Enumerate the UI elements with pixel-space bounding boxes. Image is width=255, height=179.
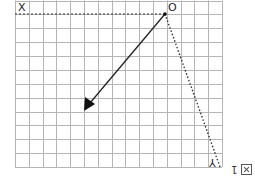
caption-number: 1 <box>231 164 237 175</box>
grid-lines <box>15 1 223 168</box>
label-x: X <box>18 2 26 13</box>
figure-caption: 1 <box>231 164 252 175</box>
grid-diagram <box>0 0 255 179</box>
figure-box-icon <box>241 164 252 175</box>
oy-dotted-line <box>165 14 220 167</box>
label-y: Y <box>209 157 216 168</box>
point-o <box>163 12 167 16</box>
label-o: O <box>168 2 177 13</box>
